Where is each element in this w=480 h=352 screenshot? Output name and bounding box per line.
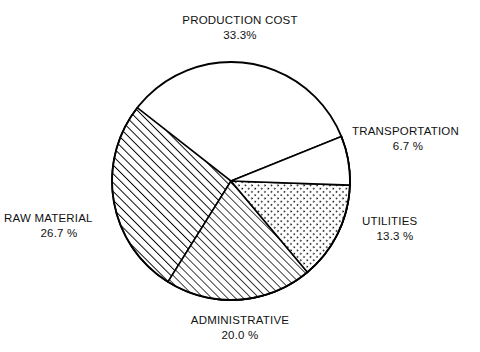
slice-transportation[interactable]	[231, 136, 350, 185]
slice-label-transportation: TRANSPORTATION 6.7 %	[352, 124, 478, 154]
slice-label-raw-material-value: 26.7 %	[4, 226, 114, 241]
slice-label-raw-material: RAW MATERIAL 26.7 %	[4, 211, 124, 241]
pie-chart-graphic	[0, 0, 480, 352]
pie-slices	[112, 108, 350, 300]
slice-label-production-cost-name: PRODUCTION COST	[0, 13, 480, 28]
slice-label-production-cost: PRODUCTION COST 33.3%	[0, 13, 480, 43]
pie-chart-figure: PRODUCTION COST 33.3% TRANSPORTATION 6.7…	[0, 0, 480, 352]
slice-label-administrative: ADMINISTRATIVE 20.0 %	[0, 313, 480, 343]
slice-label-utilities-value: 13.3 %	[362, 229, 428, 244]
slice-label-raw-material-name: RAW MATERIAL	[4, 211, 124, 226]
slice-label-administrative-value: 20.0 %	[0, 328, 480, 343]
slice-label-transportation-name: TRANSPORTATION	[352, 124, 478, 139]
slice-label-transportation-value: 6.7 %	[352, 139, 464, 154]
slice-label-utilities-name: UTILITIES	[362, 214, 480, 229]
slice-label-production-cost-value: 33.3%	[0, 28, 480, 43]
slice-label-administrative-name: ADMINISTRATIVE	[0, 313, 480, 328]
slice-label-utilities: UTILITIES 13.3 %	[362, 214, 480, 244]
